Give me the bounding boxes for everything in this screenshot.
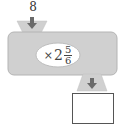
multiply-operator: ×	[44, 49, 53, 62]
operation-label: × 2 5 6	[36, 43, 80, 67]
fraction-numerator: 5	[64, 45, 72, 56]
output-answer-box[interactable]	[72, 93, 114, 124]
fraction: 5 6	[64, 45, 72, 66]
input-value: 8	[27, 1, 39, 13]
mixed-number-whole: 2	[54, 47, 63, 63]
fraction-denominator: 6	[64, 56, 72, 66]
